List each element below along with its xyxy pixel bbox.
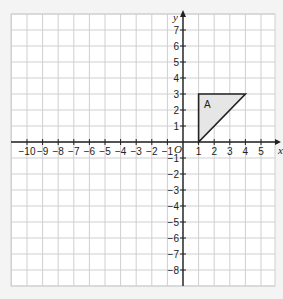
x-tick-label: −2 xyxy=(146,146,158,157)
x-tick-label: −5 xyxy=(99,146,111,157)
x-tick-label: −4 xyxy=(115,146,127,157)
y-tick-label: −8 xyxy=(168,265,180,276)
x-axis-label: x xyxy=(277,144,283,156)
y-tick-label: 6 xyxy=(173,41,179,52)
y-tick-label: −2 xyxy=(168,169,180,180)
x-tick-label: 3 xyxy=(227,146,233,157)
shape-label: A xyxy=(204,99,211,110)
x-tick-label: −3 xyxy=(130,146,142,157)
y-tick-label: −4 xyxy=(168,201,180,212)
y-tick-label: 1 xyxy=(173,121,179,132)
y-tick-label: 4 xyxy=(173,73,179,84)
y-tick-label: −7 xyxy=(168,249,180,260)
x-tick-label: −6 xyxy=(84,146,96,157)
x-tick-label: 1 xyxy=(196,146,202,157)
x-tick-label: −7 xyxy=(68,146,80,157)
x-tick-label: −10 xyxy=(19,146,36,157)
y-tick-label: −3 xyxy=(168,185,180,196)
origin-label: O xyxy=(174,143,182,155)
x-tick-label: −9 xyxy=(37,146,49,157)
y-tick-label: 5 xyxy=(173,57,179,68)
x-tick-label: 2 xyxy=(211,146,217,157)
y-tick-label: −6 xyxy=(168,233,180,244)
y-tick-label: 3 xyxy=(173,89,179,100)
plot-area xyxy=(11,14,275,286)
x-tick-label: 4 xyxy=(243,146,249,157)
y-axis-label: y xyxy=(172,11,178,23)
y-tick-label: 7 xyxy=(173,25,179,36)
x-tick-label: 5 xyxy=(258,146,264,157)
coordinate-grid: A−10−9−8−7−6−5−4−3−2−1123457654321−1−2−3… xyxy=(0,0,283,299)
y-tick-label: −5 xyxy=(168,217,180,228)
y-tick-label: 2 xyxy=(173,105,179,116)
x-tick-label: −8 xyxy=(52,146,64,157)
